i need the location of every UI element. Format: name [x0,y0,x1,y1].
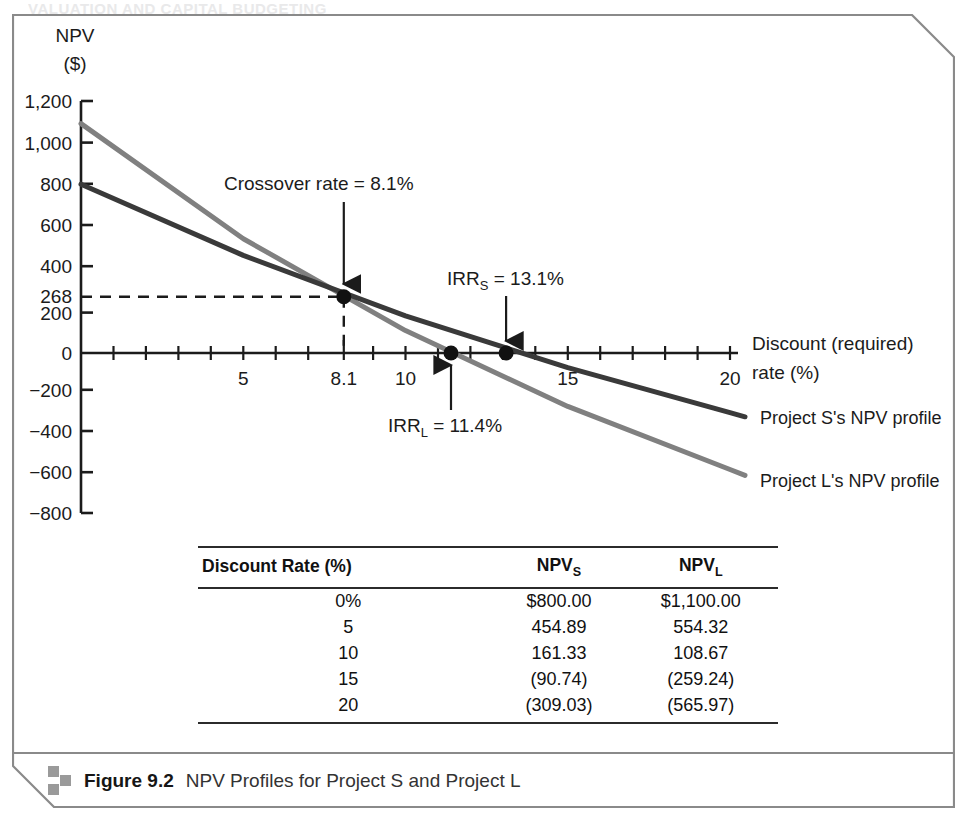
x-tick-label-5: 5 [238,368,249,389]
cell-npv-s: 161.33 [494,641,623,667]
cell-discount-rate: 10 [198,641,494,667]
cell-npv-s: (90.74) [494,667,623,693]
series-label-project-l: Project L's NPV profile [760,471,940,491]
cell-discount-rate: 5 [198,615,494,641]
y-tick-label-neg200: −200 [29,380,72,401]
irr-s-text-main: IRR [447,268,480,289]
y-axis [81,101,93,513]
table-bottom-rule [198,722,778,724]
npv-data-table-container: Discount Rate (%) NPVS NPVL 0% $800.00 $… [198,546,778,724]
figure-caption-text: NPV Profiles for Project S and Project L [186,770,521,792]
cell-npv-l: (565.97) [624,693,778,721]
column-header-npv-s: NPVS [494,547,623,588]
figure-number-label: Figure 9.2 [84,770,174,792]
x-tick-label-8.1: 8.1 [331,368,357,389]
irr-s-point-marker [499,346,514,361]
x-axis [81,340,738,360]
caption-divider [12,752,955,754]
irr-l-text-main: IRR [388,415,421,436]
cell-npv-s: $800.00 [494,588,623,615]
irr-l-annotation-label: IRRL = 11.4% [388,415,502,440]
y-tick-label-1200: 1,200 [24,91,72,112]
cell-discount-rate: 15 [198,667,494,693]
y-tick-label-200: 200 [40,303,72,324]
table-row: 0% $800.00 $1,100.00 [198,588,778,615]
crossover-annotation-label: Crossover rate = 8.1% [224,173,414,194]
y-tick-label-400: 400 [40,256,72,277]
npv-data-table: Discount Rate (%) NPVS NPVL 0% $800.00 $… [198,546,778,720]
series-label-project-s: Project S's NPV profile [760,408,942,428]
cell-npv-l: $1,100.00 [624,588,778,615]
npv-profiles-chart: NPV ($) 1,200 1,000 800 600 400 268 200 … [0,0,969,545]
table-row: 5 454.89 554.32 [198,615,778,641]
y-axis-title-line1: NPV [55,25,94,46]
svg-text:IRRS = 13.1%: IRRS = 13.1% [447,268,564,293]
crossover-point-marker [336,289,351,304]
x-tick-label-20: 20 [719,368,740,389]
cell-npv-s: 454.89 [494,615,623,641]
column-header-discount-rate: Discount Rate (%) [198,547,494,588]
cell-discount-rate: 20 [198,693,494,721]
irr-s-text-tail: = 13.1% [488,268,564,289]
irr-l-text-tail: = 11.4% [428,415,502,436]
squares-marker-icon [46,766,72,796]
table-header-row: Discount Rate (%) NPVS NPVL [198,547,778,588]
cell-npv-s: (309.03) [494,693,623,721]
x-tick-label-10: 10 [395,368,416,389]
y-tick-label-neg400: −400 [29,421,72,442]
cell-discount-rate: 0% [198,588,494,615]
x-axis-title-line2: rate (%) [752,362,820,383]
cell-npv-l: 554.32 [624,615,778,641]
x-axis-title-line1: Discount (required) [752,333,914,354]
y-tick-label-0: 0 [61,343,72,364]
irr-s-annotation-label: IRRS = 13.1% [447,268,564,293]
y-tick-label-neg800: −800 [29,503,72,524]
y-tick-label-1000: 1,000 [24,133,72,154]
irr-s-text-sub: S [480,278,489,293]
y-axis-title-line2: ($) [63,53,86,74]
irr-l-point-marker [444,346,459,361]
y-tick-label-800: 800 [40,174,72,195]
chart-svg: NPV ($) 1,200 1,000 800 600 400 268 200 … [0,0,969,545]
y-tick-label-600: 600 [40,215,72,236]
svg-text:IRRL = 11.4%: IRRL = 11.4% [388,415,502,440]
column-header-npv-l: NPVL [624,547,778,588]
table-row: 20 (309.03) (565.97) [198,693,778,721]
y-tick-label-neg600: −600 [29,462,72,483]
table-body: 0% $800.00 $1,100.00 5 454.89 554.32 10 … [198,588,778,721]
table-row: 15 (90.74) (259.24) [198,667,778,693]
irr-l-text-sub: L [421,425,428,440]
crossover-guides [81,297,344,353]
figure-caption: Figure 9.2 NPV Profiles for Project S an… [46,766,521,796]
cell-npv-l: 108.67 [624,641,778,667]
table-header: Discount Rate (%) NPVS NPVL [198,547,778,588]
cell-npv-l: (259.24) [624,667,778,693]
table-row: 10 161.33 108.67 [198,641,778,667]
